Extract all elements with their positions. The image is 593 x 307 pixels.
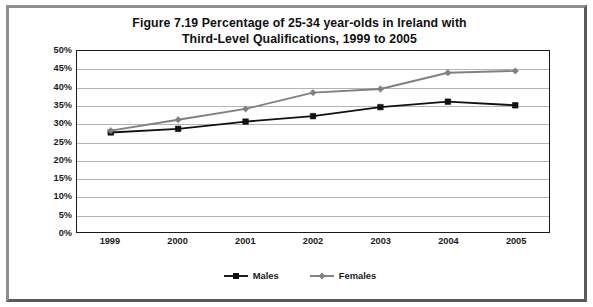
legend-label: Males (253, 270, 279, 281)
data-point-marker (242, 106, 248, 112)
data-point-marker (377, 86, 383, 92)
legend-entry-males[interactable]: Males (223, 270, 279, 281)
data-point-marker (512, 68, 518, 74)
data-point-marker (310, 89, 316, 95)
plot-area (76, 50, 550, 233)
y-axis: 50%45%40%35%30%25%20%15%10%5%0% (29, 50, 72, 233)
chart-title: Figure 7.19 Percentage of 25-34 year-old… (29, 15, 570, 47)
chart-title-line-2: Third-Level Qualifications, 1999 to 2005 (29, 31, 570, 47)
x-axis-tick-label: 2005 (506, 236, 526, 246)
y-axis-tick-label: 25% (54, 137, 72, 147)
y-axis-tick-label: 20% (54, 155, 72, 165)
data-point-marker (445, 99, 451, 105)
series-males (108, 99, 518, 135)
chart-legend: MalesFemales (9, 270, 584, 281)
y-axis-tick-label: 45% (54, 63, 72, 73)
y-axis-tick-label: 30% (54, 118, 72, 128)
x-axis-tick-label: 2002 (303, 236, 323, 246)
y-axis-tick-label: 5% (59, 210, 72, 220)
chart-title-line-1: Figure 7.19 Percentage of 25-34 year-old… (132, 16, 466, 30)
data-point-marker (175, 117, 181, 123)
y-axis-tick-label: 0% (59, 228, 72, 238)
series-line (111, 71, 516, 131)
x-axis-tick-label: 2004 (438, 236, 458, 246)
legend-entry-females[interactable]: Females (309, 270, 377, 281)
x-axis-tick-label: 2001 (235, 236, 255, 246)
x-axis-tick-label: 2000 (167, 236, 187, 246)
x-axis-tick-label: 1999 (100, 236, 120, 246)
data-point-marker (378, 104, 384, 110)
y-axis-tick-label: 50% (54, 45, 72, 55)
y-axis-tick-label: 40% (54, 82, 72, 92)
legend-label: Females (339, 270, 377, 281)
data-point-marker (512, 103, 518, 109)
data-point-marker (243, 119, 249, 125)
x-axis: 1999200020012002200320042005 (76, 236, 550, 252)
data-point-marker (445, 70, 451, 76)
figure-panel: Figure 7.19 Percentage of 25-34 year-old… (9, 8, 584, 299)
y-axis-tick-label: 10% (54, 191, 72, 201)
series-females (108, 68, 519, 134)
legend-marker-square-icon (223, 271, 249, 281)
legend-marker-diamond-icon (309, 271, 335, 281)
x-axis-tick-label: 2003 (370, 236, 390, 246)
data-point-marker (175, 126, 181, 132)
series-layer (77, 51, 549, 232)
y-axis-tick-label: 15% (54, 173, 72, 183)
y-axis-tick-label: 35% (54, 100, 72, 110)
figure-frame: Figure 7.19 Percentage of 25-34 year-old… (6, 5, 587, 302)
data-point-marker (310, 113, 316, 119)
